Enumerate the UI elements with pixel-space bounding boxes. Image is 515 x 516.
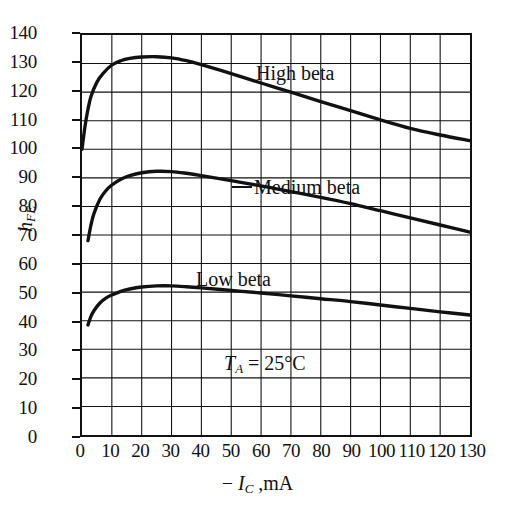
y-tick-mark bbox=[72, 32, 80, 34]
y-tick-mark bbox=[72, 292, 80, 294]
y-tick-mark bbox=[72, 119, 80, 121]
y-tick-label: 110 bbox=[0, 110, 37, 129]
x-tick-label: 30 bbox=[162, 441, 180, 460]
y-tick-label: 40 bbox=[0, 312, 37, 331]
figure-container: 0102030405060708090100110120130140 01020… bbox=[0, 0, 515, 516]
y-tick-mark bbox=[72, 147, 80, 149]
y-tick-mark bbox=[72, 90, 80, 92]
y-tick-label: 50 bbox=[0, 283, 37, 302]
x-tick-label: 130 bbox=[459, 441, 486, 460]
y-tick-label: 60 bbox=[0, 254, 37, 273]
y-tick-label: 0 bbox=[0, 427, 37, 446]
y-tick-label: 30 bbox=[0, 340, 37, 359]
y-tick-mark bbox=[72, 61, 80, 63]
x-axis-label-unit: ,mA bbox=[258, 472, 293, 494]
x-tick-label: 80 bbox=[312, 441, 330, 460]
x-tick-label: 20 bbox=[131, 441, 149, 460]
y-tick-mark bbox=[72, 263, 80, 265]
x-tick-label: 40 bbox=[192, 441, 210, 460]
x-tick-label: 50 bbox=[222, 441, 240, 460]
annotation-medium-beta: Medium beta bbox=[254, 176, 360, 199]
y-axis-label-main: h bbox=[14, 222, 36, 232]
y-tick-mark bbox=[72, 321, 80, 323]
x-tick-label: 120 bbox=[428, 441, 455, 460]
y-tick-label: 10 bbox=[0, 398, 37, 417]
y-tick-label: 130 bbox=[0, 52, 37, 71]
temp-symbol: T bbox=[224, 352, 235, 374]
y-tick-mark bbox=[72, 407, 80, 409]
x-tick-label: 110 bbox=[399, 441, 425, 460]
x-tick-label: 90 bbox=[342, 441, 360, 460]
x-axis-label-minus: − bbox=[222, 472, 233, 494]
y-tick-mark bbox=[72, 349, 80, 351]
y-tick-label: 100 bbox=[0, 138, 37, 157]
x-tick-label: 0 bbox=[76, 441, 85, 460]
y-axis-label-sub: FE bbox=[23, 206, 38, 222]
annotation-low-beta: Low beta bbox=[196, 268, 271, 291]
x-tick-label: 10 bbox=[101, 441, 119, 460]
x-tick-label: 60 bbox=[252, 441, 270, 460]
y-axis-label: hFE bbox=[14, 206, 39, 232]
y-tick-mark bbox=[72, 205, 80, 207]
temp-subscript: A bbox=[235, 361, 243, 376]
x-tick-label: 70 bbox=[282, 441, 300, 460]
x-axis-label-symbol: I bbox=[238, 472, 245, 494]
y-tick-mark bbox=[72, 378, 80, 380]
y-tick-label: 20 bbox=[0, 369, 37, 388]
annotation-ambient-temperature: TA = 25°C bbox=[224, 352, 306, 377]
annotation-high-beta: High beta bbox=[256, 62, 334, 85]
temp-value: = 25°C bbox=[248, 352, 306, 374]
y-tick-mark bbox=[72, 234, 80, 236]
x-axis-label: − IC ,mA bbox=[0, 472, 515, 497]
y-tick-mark bbox=[72, 436, 80, 438]
leader-line-medium-beta bbox=[232, 186, 252, 188]
x-tick-label: 100 bbox=[368, 441, 395, 460]
y-tick-label: 140 bbox=[0, 23, 37, 42]
y-tick-mark bbox=[72, 176, 80, 178]
y-tick-label: 90 bbox=[0, 167, 37, 186]
curve-low-beta bbox=[88, 286, 470, 325]
x-axis-label-sub: C bbox=[245, 481, 254, 496]
y-tick-label: 120 bbox=[0, 81, 37, 100]
